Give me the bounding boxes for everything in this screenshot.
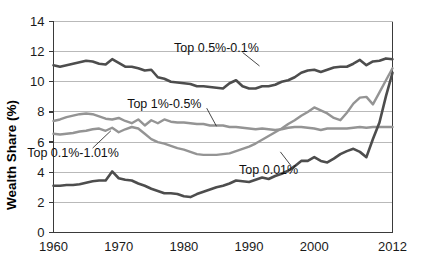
x-tick-label: 2012 (378, 239, 407, 254)
chart-svg: 02468101214 196019701980199020002012 Top… (0, 0, 422, 272)
x-tick-label: 1970 (104, 239, 133, 254)
x-tick-label: 1980 (169, 239, 198, 254)
series-annotations: Top 0.5%-0.1%Top 1%-0.5%Top 0.1%-1.01%To… (27, 41, 298, 177)
y-tick-label: 14 (30, 14, 44, 29)
y-tick-label: 10 (30, 74, 44, 89)
y-axis-title-text: Wealth Share (%) (4, 100, 19, 210)
y-tick-labels: 02468101214 (30, 14, 44, 240)
y-tick-marks (49, 22, 54, 233)
y-axis-title: Wealth Share (%) (4, 100, 19, 210)
x-tick-labels: 196019701980199020002012 (39, 239, 407, 254)
series-line (54, 113, 393, 130)
series-label: Top 0.01% (239, 163, 298, 177)
series-label: Top 0.5%-0.1% (174, 41, 259, 55)
series-line (54, 73, 393, 197)
annotation-leader-line (207, 108, 217, 126)
x-tick-label: 2000 (300, 239, 329, 254)
y-tick-label: 2 (37, 195, 44, 210)
series-label: Top 0.1%-1.01% (27, 146, 119, 160)
x-tick-label: 1990 (235, 239, 264, 254)
y-tick-label: 8 (37, 104, 44, 119)
data-series-lines (54, 58, 393, 197)
x-tick-label: 1960 (39, 239, 68, 254)
series-label: Top 1%-0.5% (127, 97, 201, 111)
y-tick-label: 4 (37, 165, 44, 180)
wealth-share-chart: 02468101214 196019701980199020002012 Top… (0, 0, 422, 272)
series-line (54, 58, 393, 88)
y-tick-label: 12 (30, 44, 44, 59)
